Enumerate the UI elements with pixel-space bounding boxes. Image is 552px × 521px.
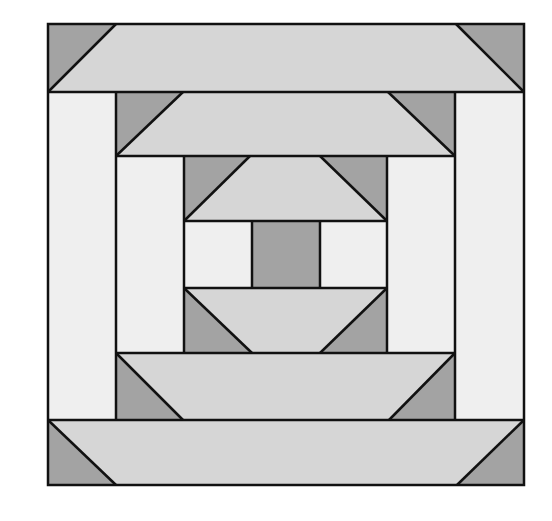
outer-left-column [48,92,116,420]
outer-top-band [48,24,524,92]
middle-left-column [116,156,184,353]
quilt-block-diagram [0,0,552,521]
middle-right-column [387,156,455,353]
inner-right-cell [320,221,387,288]
outer-bottom-band [48,420,524,485]
outer-right-column [455,92,524,420]
center-square [252,221,320,288]
inner-left-cell [184,221,252,288]
